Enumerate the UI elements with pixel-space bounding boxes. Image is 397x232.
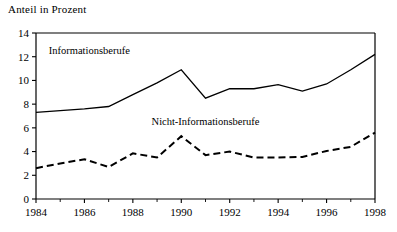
line-chart: 0246810121419841986198819901992199419961… [0,0,397,232]
y-tick-label: 12 [18,51,29,63]
x-tick-label: 1998 [364,206,387,218]
series-label-1: Nicht-Informationsberufe [152,116,260,127]
x-tick-label: 1984 [25,206,48,218]
x-tick-label: 1990 [170,206,193,218]
x-tick-label: 1994 [267,206,290,218]
y-tick-label: 6 [24,122,30,134]
x-tick-label: 1992 [219,206,241,218]
y-tick-label: 10 [18,74,30,86]
y-tick-label: 2 [24,169,30,181]
y-tick-label: 8 [24,98,30,110]
x-tick-label: 1988 [122,206,145,218]
chart-figure: Anteil in Prozent 0246810121419841986198… [0,0,397,232]
chart-series-labels: InformationsberufeNicht-Informationsberu… [49,45,260,127]
series-label-0: Informationsberufe [49,45,130,56]
x-tick-label: 1996 [316,206,339,218]
series-line-0 [36,54,375,112]
chart-series [36,54,375,168]
y-tick-label: 4 [24,145,30,157]
x-tick-label: 1986 [73,206,96,218]
series-line-1 [36,133,375,169]
y-tick-label: 0 [24,193,30,205]
y-tick-label: 14 [18,27,30,39]
